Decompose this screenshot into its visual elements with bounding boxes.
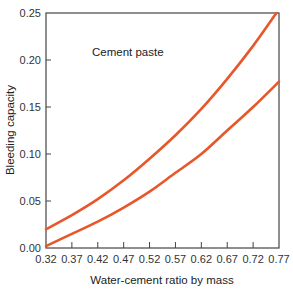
line-chart: 0.000.050.100.150.200.25 0.320.370.420.4… (0, 0, 293, 290)
x-tick-label: 0.52 (139, 253, 160, 265)
x-tick-label: 0.72 (242, 253, 263, 265)
x-tick-label: 0.47 (113, 253, 134, 265)
series-line (46, 82, 279, 247)
x-tick-label: 0.32 (35, 253, 56, 265)
y-tick-label: 0.25 (20, 7, 41, 19)
x-tick-label: 0.42 (87, 253, 108, 265)
x-tick-label: 0.57 (165, 253, 186, 265)
y-tick-label: 0.10 (20, 148, 41, 160)
chart-annotation: Cement paste (92, 46, 164, 58)
y-axis-label: Bleeding capacity (4, 85, 16, 175)
x-axis-label: Water-cement ratio by mass (90, 274, 234, 286)
x-axis-ticks: 0.320.370.420.470.520.570.620.670.720.77 (35, 242, 289, 265)
x-tick-label: 0.77 (268, 253, 289, 265)
y-tick-label: 0.05 (20, 195, 41, 207)
y-tick-label: 0.20 (20, 54, 41, 66)
y-tick-label: 0.15 (20, 101, 41, 113)
x-tick-label: 0.67 (217, 253, 238, 265)
x-tick-label: 0.37 (61, 253, 82, 265)
x-tick-label: 0.62 (191, 253, 212, 265)
